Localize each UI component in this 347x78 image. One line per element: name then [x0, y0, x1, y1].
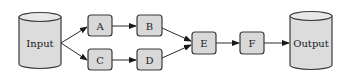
input-cylinder: Input [19, 13, 61, 69]
output-cylinder: Output [290, 12, 332, 70]
edge-input-to-a [61, 27, 87, 43]
input-label: Input [26, 38, 53, 49]
node-e: E [192, 32, 216, 54]
node-a-label: A [95, 21, 104, 32]
node-e-label: E [200, 38, 207, 49]
node-f-label: F [249, 38, 256, 49]
edge-d-to-e [162, 45, 191, 58]
node-d: D [137, 49, 162, 70]
node-c-label: C [96, 55, 104, 66]
node-b: B [137, 15, 162, 36]
edge-input-to-c [61, 43, 87, 60]
node-a: A [88, 15, 112, 36]
node-f: F [240, 32, 264, 54]
node-d-label: D [145, 55, 153, 66]
node-c: C [88, 49, 112, 70]
flow-diagram: Input A B C D E F Output [0, 0, 347, 78]
edge-b-to-e [162, 28, 191, 41]
output-label: Output [293, 38, 329, 49]
node-b-label: B [146, 21, 153, 32]
